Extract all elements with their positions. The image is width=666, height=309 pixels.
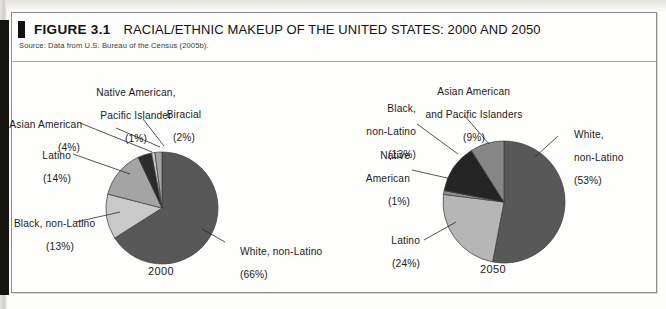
year-label-2000: 2000 (148, 265, 174, 277)
label-line-1: Native American, (96, 87, 175, 98)
label-line-2: (66%) (240, 269, 268, 280)
label-latino: Latino (24%) (352, 223, 420, 281)
label-line-1: Black, (387, 103, 416, 114)
label-line-1: White, (574, 129, 604, 140)
label-line-2: (2%) (173, 132, 195, 143)
pie-slice-latino (443, 194, 504, 262)
label-line-1: Black, non-Latino (14, 218, 95, 229)
label-line-2: non-Latino (366, 126, 416, 137)
label-line-1: Asian American (9, 119, 82, 130)
label-biracial: Biracial (2%) (150, 97, 206, 155)
label-line-2: American (366, 173, 410, 184)
label-line-2: non-Latino (574, 152, 624, 163)
leader-latino (73, 154, 130, 174)
figure-number: FIGURE 3.1 (34, 22, 111, 37)
figure-title: RACIAL/ETHNIC MAKEUP OF THE UNITED STATE… (124, 22, 541, 37)
label-line-1: Latino (391, 235, 420, 246)
label-line-1: White, non-Latino (240, 246, 322, 257)
label-line-1: Latino (42, 150, 71, 161)
label-black-non-latino: Black, non-Latino (13%) (2, 206, 74, 264)
label-line-2: and Pacific Islanders (425, 109, 522, 120)
label-white-non-latino: White, non-Latino (53%) (562, 117, 652, 198)
leader-white-non-latino (535, 136, 558, 157)
label-latino: Latino (14%) (12, 138, 71, 196)
label-native-american: Native American (1%) (336, 138, 410, 219)
label-line-2: (14%) (43, 173, 71, 184)
pie-chart-2000: Native American, Pacific Islander (1%) B… (12, 62, 332, 290)
scan-shadow (0, 0, 666, 11)
source-note: Source: Data from U.S. Bureau of the Cen… (19, 41, 209, 50)
label-line-3: (53%) (574, 175, 602, 186)
label-line-1: Native (380, 150, 410, 161)
figure-marker-icon (18, 21, 25, 38)
label-line-1: Biracial (167, 109, 202, 120)
label-line-2: (24%) (392, 258, 420, 269)
label-asian-american-pacific-islanders: Asian American and Pacific Islanders (9%… (400, 74, 536, 155)
label-line-1: Asian American (437, 86, 510, 97)
label-line-3: (9%) (463, 132, 485, 143)
label-white-non-latino: White, non-Latino (66%) (228, 234, 332, 292)
year-label-2050: 2050 (480, 263, 506, 275)
label-line-3: (1%) (125, 133, 147, 144)
label-line-3: (1%) (388, 196, 410, 207)
label-line-2: (13%) (46, 241, 74, 252)
pie-chart-2050: Asian American and Pacific Islanders (9%… (340, 62, 660, 290)
figure-header: FIGURE 3.1 RACIAL/ETHNIC MAKEUP OF THE U… (13, 14, 653, 44)
